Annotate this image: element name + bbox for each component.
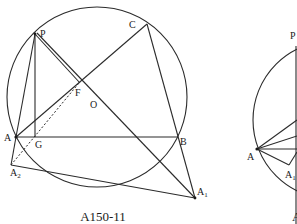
point-P bbox=[34, 33, 37, 36]
label-F: F bbox=[75, 87, 81, 98]
point-A bbox=[14, 135, 17, 138]
point-A-2 bbox=[255, 147, 258, 150]
figure-a150-11: P C F O A G B A2 A1 A150-11 bbox=[4, 7, 208, 224]
segment-PA bbox=[16, 34, 35, 137]
label-A2: A2 bbox=[10, 167, 21, 180]
label-B: B bbox=[180, 136, 187, 147]
label-A-2: A bbox=[247, 151, 255, 162]
label-C: C bbox=[129, 19, 136, 30]
segment-C-A1 bbox=[147, 24, 195, 198]
figure-2-partial: P A A1 A bbox=[247, 30, 297, 224]
segment-A-upper bbox=[257, 120, 297, 149]
label-G: G bbox=[35, 139, 42, 150]
segment-AC bbox=[16, 24, 147, 137]
geometry-diagram: P C F O A G B A2 A1 A150-11 P A A1 A bbox=[0, 0, 297, 224]
figure-caption: A150-11 bbox=[80, 209, 126, 224]
segment-P-A1 bbox=[37, 33, 195, 198]
label-A1: A1 bbox=[197, 186, 208, 199]
segment-A-mid bbox=[257, 136, 297, 149]
segment-PF bbox=[35, 34, 80, 83]
dashed-A2-F bbox=[11, 83, 79, 165]
segment-A-A2 bbox=[11, 137, 16, 165]
figure-caption-2: A bbox=[292, 209, 297, 224]
label-A1-2: A1 bbox=[285, 169, 296, 182]
label-P-2: P bbox=[290, 30, 296, 41]
point-A1 bbox=[194, 197, 197, 200]
label-O: O bbox=[90, 99, 97, 110]
label-A: A bbox=[4, 132, 12, 143]
label-P: P bbox=[40, 28, 46, 39]
